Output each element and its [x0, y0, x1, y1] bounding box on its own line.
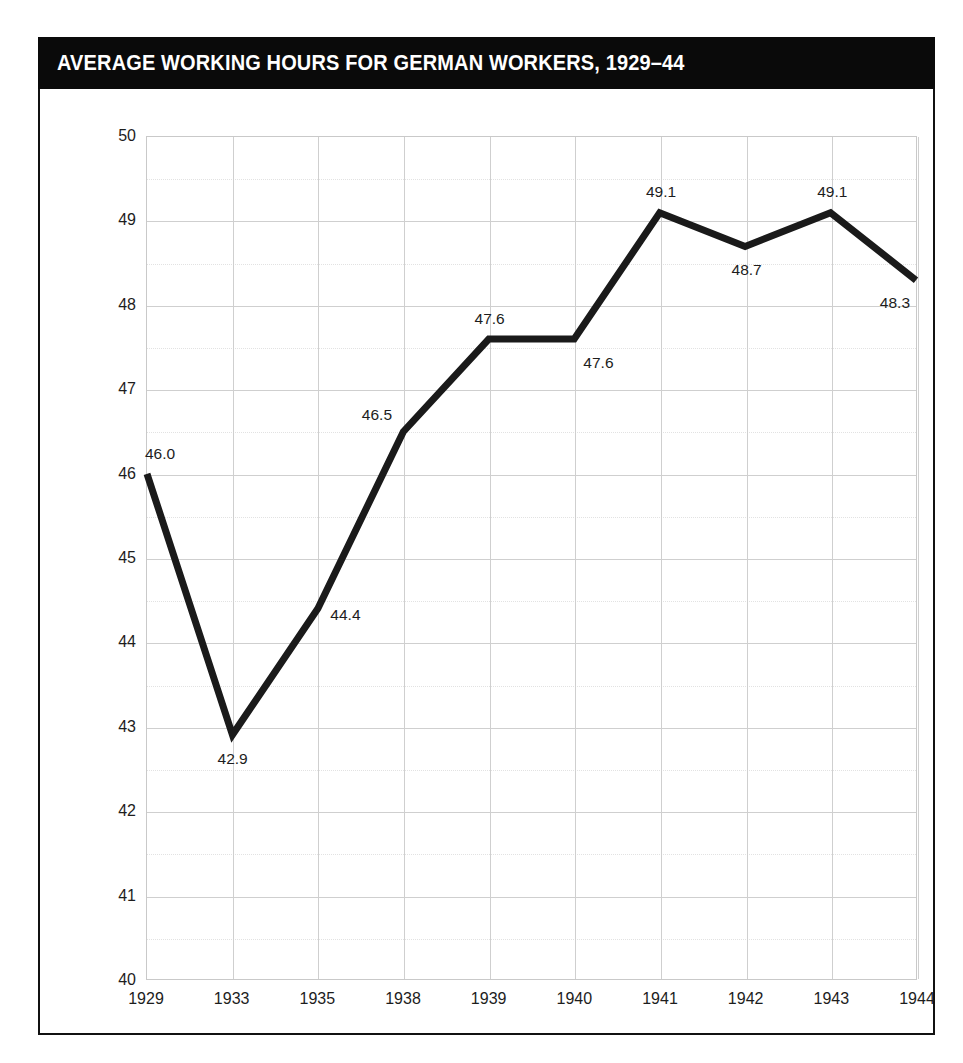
chart-title: AVERAGE WORKING HOURS FOR GERMAN WORKERS… — [57, 51, 732, 76]
y-axis-tick-label: 44 — [118, 633, 136, 651]
series-line-path — [147, 213, 916, 735]
data-point-label: 49.1 — [646, 183, 676, 201]
x-axis-tick-label: 1942 — [728, 990, 764, 1008]
x-axis-tick-label: 1941 — [642, 990, 678, 1008]
x-axis-tick-label: 1938 — [385, 990, 421, 1008]
data-point-label: 44.4 — [330, 606, 360, 624]
plot-area: 46.042.944.446.547.647.649.148.749.148.3 — [146, 136, 917, 980]
y-axis-tick-label: 40 — [118, 971, 136, 989]
y-axis-tick-label: 50 — [118, 127, 136, 145]
chart-title-text: AVERAGE WORKING HOURS FOR GERMAN WORKERS… — [57, 51, 685, 76]
y-axis-tick-label: 41 — [118, 887, 136, 905]
gridline-vertical — [918, 137, 919, 979]
data-point-label: 42.9 — [218, 750, 248, 768]
data-point-label: 47.6 — [475, 310, 505, 328]
data-point-label: 46.0 — [145, 445, 175, 463]
x-axis-tick-label: 1933 — [214, 990, 250, 1008]
x-axis-tick-label: 1939 — [471, 990, 507, 1008]
y-axis-tick-label: 47 — [118, 380, 136, 398]
chart-title-banner: AVERAGE WORKING HOURS FOR GERMAN WORKERS… — [38, 37, 935, 89]
x-axis-tick-labels: 1929193319351938193919401941194219431944 — [146, 990, 917, 1014]
x-axis-tick-label: 1940 — [557, 990, 593, 1008]
y-axis-tick-label: 45 — [118, 549, 136, 567]
data-point-label: 48.7 — [732, 261, 762, 279]
chart-figure: AVERAGE WORKING HOURS FOR GERMAN WORKERS… — [0, 0, 963, 1063]
x-axis-tick-label: 1929 — [128, 990, 164, 1008]
y-axis-tick-labels: 5049484746454443424140 — [96, 136, 136, 980]
data-point-label: 46.5 — [362, 406, 392, 424]
y-axis-tick-label: 49 — [118, 211, 136, 229]
data-point-label: 49.1 — [817, 183, 847, 201]
data-point-label: 47.6 — [583, 354, 613, 372]
series-line-chart — [147, 137, 916, 979]
y-axis-tick-label: 46 — [118, 465, 136, 483]
data-point-label: 48.3 — [880, 294, 910, 312]
y-axis-tick-label: 42 — [118, 802, 136, 820]
x-axis-tick-label: 1944 — [899, 990, 935, 1008]
y-axis-tick-label: 48 — [118, 296, 136, 314]
x-axis-tick-label: 1935 — [300, 990, 336, 1008]
y-axis-tick-label: 43 — [118, 718, 136, 736]
x-axis-tick-label: 1943 — [814, 990, 850, 1008]
